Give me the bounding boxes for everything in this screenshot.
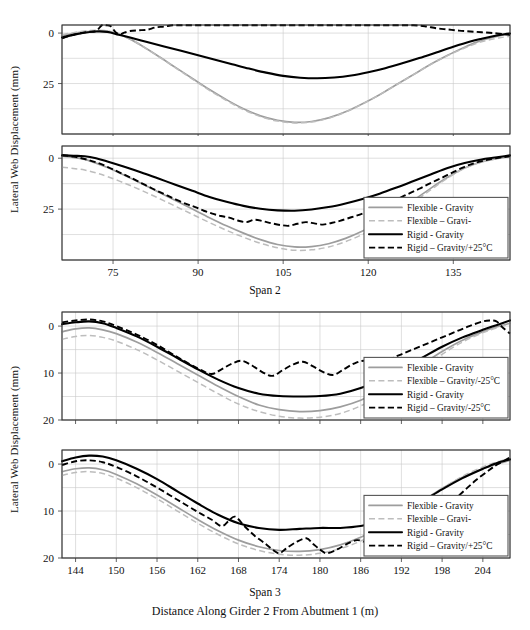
x-tick-label: 198 bbox=[434, 564, 451, 576]
y-tick-label: 25 bbox=[43, 78, 55, 90]
legend-label: Flexible – Gravi- bbox=[407, 216, 471, 226]
y-tick-label: 0 bbox=[49, 458, 55, 470]
legend-label: Rigid – Gravity/+25°C bbox=[407, 243, 492, 253]
x-tick-label: 135 bbox=[445, 266, 462, 278]
span2-caption: Span 2 bbox=[0, 284, 530, 296]
figure-lateral-web-displacement: Lateral Web Displacement (mm) Lateral We… bbox=[0, 0, 530, 630]
x-tick-label: 156 bbox=[149, 564, 166, 576]
legend-label: Flexible - Gravity bbox=[407, 501, 474, 511]
x-tick-label: 150 bbox=[108, 564, 125, 576]
x-tick-label: 105 bbox=[275, 266, 292, 278]
x-tick-label: 75 bbox=[108, 266, 120, 278]
chart-span2-bottom: 0257590105120135Flexible - GravityFlexib… bbox=[0, 140, 530, 290]
x-tick-label: 204 bbox=[475, 564, 492, 576]
legend-label: Rigid - Gravity bbox=[407, 390, 464, 400]
plot-frame bbox=[62, 25, 510, 134]
x-axis-label: Distance Along Girder 2 From Abutment 1 … bbox=[0, 604, 530, 619]
legend-label: Rigid – Gravity/+25°C bbox=[407, 541, 492, 551]
legend-label: Flexible - Gravity bbox=[407, 363, 474, 373]
legend-label: Flexible – Gravity/-25°C bbox=[407, 376, 500, 386]
x-tick-label: 180 bbox=[312, 564, 329, 576]
y-tick-label: 20 bbox=[43, 414, 55, 426]
y-tick-label: 0 bbox=[49, 152, 55, 164]
x-tick-label: 168 bbox=[230, 564, 247, 576]
x-tick-label: 186 bbox=[352, 564, 369, 576]
x-tick-label: 120 bbox=[360, 266, 377, 278]
x-tick-label: 90 bbox=[193, 266, 205, 278]
y-tick-label: 20 bbox=[43, 552, 55, 564]
y-tick-label: 0 bbox=[49, 320, 55, 332]
legend-label: Rigid – Gravity/-25°C bbox=[407, 403, 490, 413]
legend-label: Rigid - Gravity bbox=[407, 528, 464, 538]
y-tick-label: 0 bbox=[49, 27, 55, 39]
y-tick-label: 10 bbox=[43, 505, 55, 517]
legend-label: Flexible – Gravi- bbox=[407, 514, 471, 524]
y-tick-label: 25 bbox=[43, 203, 55, 215]
legend-label: Flexible - Gravity bbox=[407, 203, 474, 213]
panel-span2-top: 025 bbox=[0, 14, 530, 136]
y-tick-label: 10 bbox=[43, 367, 55, 379]
span3-caption: Span 3 bbox=[0, 586, 530, 598]
plot-frame-overlay bbox=[62, 25, 510, 134]
x-tick-label: 174 bbox=[271, 564, 288, 576]
x-tick-label: 162 bbox=[190, 564, 207, 576]
x-tick-label: 192 bbox=[393, 564, 410, 576]
chart-span2-top: 025 bbox=[0, 14, 530, 136]
chart-span3-top: 01020Flexible - GravityFlexible – Gravit… bbox=[0, 306, 530, 426]
legend-label: Rigid - Gravity bbox=[407, 230, 464, 240]
panel-span2-bottom: 0257590105120135Flexible - GravityFlexib… bbox=[0, 140, 530, 290]
panel-span3-top: 01020Flexible - GravityFlexible – Gravit… bbox=[0, 306, 530, 426]
x-tick-label: 144 bbox=[67, 564, 84, 576]
panel-span3-bottom: 01020144150156162168174180186192198204Fl… bbox=[0, 444, 530, 586]
chart-span3-bottom: 01020144150156162168174180186192198204Fl… bbox=[0, 444, 530, 586]
